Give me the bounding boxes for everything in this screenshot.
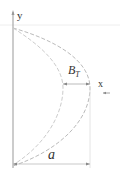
x-axis-label: x [98,79,103,89]
y-axis-label: y [17,10,23,21]
a-right-arrow-icon [86,163,90,166]
bt-left-arrow-icon [63,83,67,86]
y-axis-arrow-icon [12,10,15,15]
bt-label-subscript: T [75,70,79,79]
a-dimension-label: a [48,148,55,162]
x-axis-arrow-icon [103,92,106,94]
profile-diagram [0,0,120,179]
outer-curve [13,28,90,166]
inner-curve [13,28,63,165]
bt-dimension-label: BT [68,64,80,79]
